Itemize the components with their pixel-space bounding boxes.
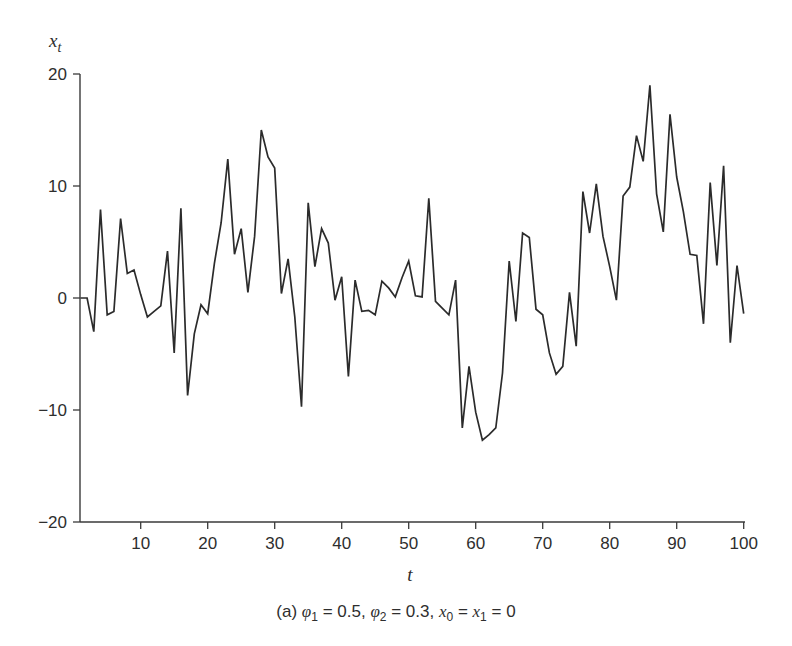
x-tick-label: 60 (466, 534, 485, 553)
x-tick-label: 80 (600, 534, 619, 553)
y-tick-label: −10 (38, 401, 67, 420)
x-axis-label: t (407, 564, 413, 585)
y-tick-label: 20 (48, 65, 67, 84)
x-tick-label: 40 (332, 534, 351, 553)
x-tick-label: 30 (265, 534, 284, 553)
chart-caption: (a) φ1 = 0.5, φ2 = 0.3, x0 = x1 = 0 (0, 602, 792, 624)
x-tick-label: 70 (533, 534, 552, 553)
y-tick-label: 0 (58, 289, 67, 308)
y-tick-label: −20 (38, 513, 67, 532)
x-axis-ticks: 102030405060708090100 (131, 522, 758, 553)
y-axis-ticks: −20−1001020 (38, 65, 80, 532)
x-tick-label: 50 (399, 534, 418, 553)
series-line-x-t (80, 85, 743, 440)
x-tick-label: 10 (131, 534, 150, 553)
y-axis-label: xt (48, 30, 62, 55)
y-tick-label: 10 (48, 177, 67, 196)
x-tick-label: 100 (730, 534, 758, 553)
x-tick-label: 20 (198, 534, 217, 553)
x-tick-label: 90 (667, 534, 686, 553)
line-chart: −20−1001020 102030405060708090100 xt t (0, 0, 792, 600)
